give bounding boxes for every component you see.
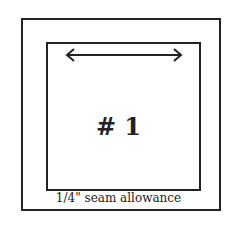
seam-allowance-caption: 1/4" seam allowance [0,191,237,205]
grainline-double-arrow-icon [64,47,184,63]
piece-number-label: # 1 [0,112,237,141]
